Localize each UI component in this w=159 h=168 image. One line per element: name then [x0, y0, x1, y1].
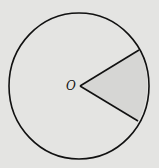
center-label: O — [66, 79, 76, 93]
shaded-sector — [80, 50, 147, 121]
circle-sector-diagram: O — [0, 0, 159, 168]
